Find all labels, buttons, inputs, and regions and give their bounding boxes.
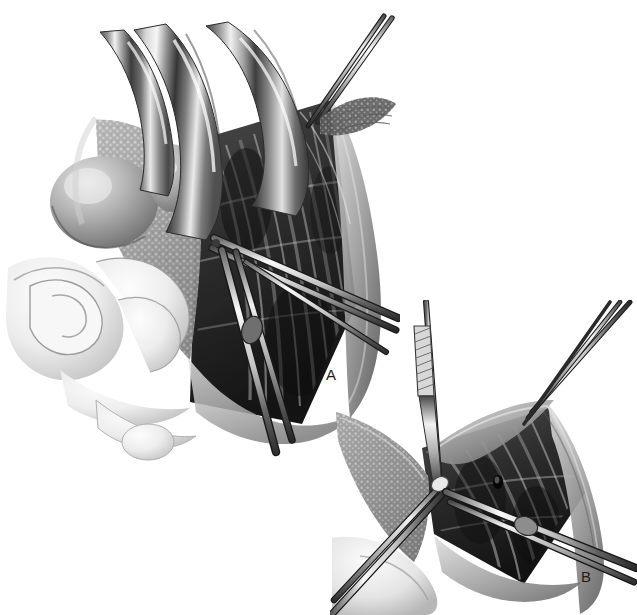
round-organ-mass xyxy=(50,156,158,248)
panel-a-label: A xyxy=(326,366,337,383)
surgical-illustration-figure: A B xyxy=(0,0,637,615)
panel-b-label: B xyxy=(581,568,592,585)
bowel-loops xyxy=(6,257,196,460)
forceps-upper-right[interactable] xyxy=(524,302,630,424)
tissue-clamp-apex[interactable] xyxy=(308,16,396,135)
